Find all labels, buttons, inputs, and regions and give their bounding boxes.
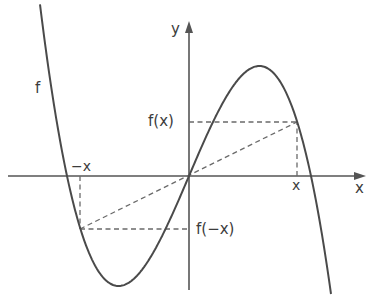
y-axis-label: y [171,22,180,37]
y-axis-arrow-icon [185,21,193,33]
f-of-x-label: f(x) [148,114,174,129]
function-curve-f [40,4,331,294]
function-label-f: f [35,81,40,96]
neg-x-label: −x [71,159,91,173]
pos-x-label: x [292,178,300,192]
x-axis-label: x [355,181,364,196]
odd-function-graph [0,0,384,302]
f-of-neg-x-label: f(−x) [196,222,234,237]
